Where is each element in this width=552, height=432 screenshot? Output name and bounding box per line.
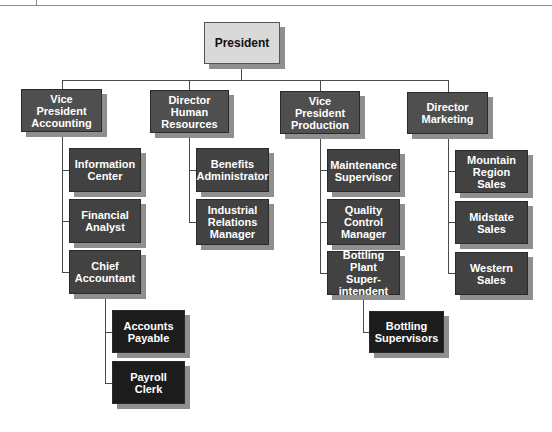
node-vp-accounting: Vice President Accounting: [21, 89, 102, 132]
node-accounts-payable: Accounts Payable: [112, 310, 185, 353]
connector-chief-spine: [105, 294, 106, 383]
connector-benefits: [189, 170, 196, 171]
node-fin-analyst: Financial Analyst: [69, 199, 141, 243]
connector-production-spine: [320, 134, 321, 273]
node-bottling-super: Bottling Plant Super- intendent: [327, 251, 400, 295]
connector-maintenance: [320, 170, 327, 171]
connector-marketing-spine: [448, 134, 449, 273]
connector-bottling-super: [320, 273, 327, 274]
node-maintenance: Maintenance Supervisor: [327, 149, 400, 192]
connector-mountain: [448, 171, 455, 172]
connector-level2-bus: [62, 80, 449, 81]
connector-info-center: [62, 170, 69, 171]
connector-president-down: [241, 64, 242, 80]
org-chart: President Vice President Accounting Dire…: [0, 0, 552, 432]
node-dir-marketing: Director Marketing: [407, 92, 488, 134]
connector-accounting-spine: [62, 132, 63, 272]
node-benefits-admin: Benefits Administrator: [196, 148, 269, 192]
node-info-center: Information Center: [69, 148, 141, 192]
connector-fin-analyst: [62, 221, 69, 222]
node-dir-hr: Director Human Resources: [150, 90, 229, 133]
node-bottling-supervisors: Bottling Supervisors: [369, 311, 444, 353]
node-payroll-clerk: Payroll Clerk: [112, 361, 185, 404]
connector-to-vp-accounting: [62, 80, 63, 89]
node-quality-control: Quality Control Manager: [327, 199, 400, 245]
connector-chief-accountant: [62, 272, 69, 273]
connector-midstate: [448, 222, 455, 223]
connector-bottling-spine: [363, 295, 364, 332]
node-ind-relations: Industrial Relations Manager: [196, 199, 269, 245]
node-vp-production: Vice President Production: [280, 91, 360, 134]
node-president: President: [204, 22, 280, 64]
connector-payroll-clerk: [105, 383, 112, 384]
connector-ind-relations: [189, 222, 196, 223]
connector-to-dir-hr: [189, 80, 190, 90]
connector-to-vp-production: [320, 80, 321, 91]
node-midstate-sales: Midstate Sales: [455, 201, 528, 244]
connector-hr-spine: [189, 133, 190, 222]
connector-quality: [320, 222, 327, 223]
connector-accounts-payable: [105, 332, 112, 333]
connector-to-dir-marketing: [448, 80, 449, 92]
node-mountain-sales: Mountain Region Sales: [455, 150, 528, 193]
node-western-sales: Western Sales: [455, 252, 528, 295]
connector-western: [448, 273, 455, 274]
node-chief-accountant: Chief Accountant: [69, 250, 141, 294]
